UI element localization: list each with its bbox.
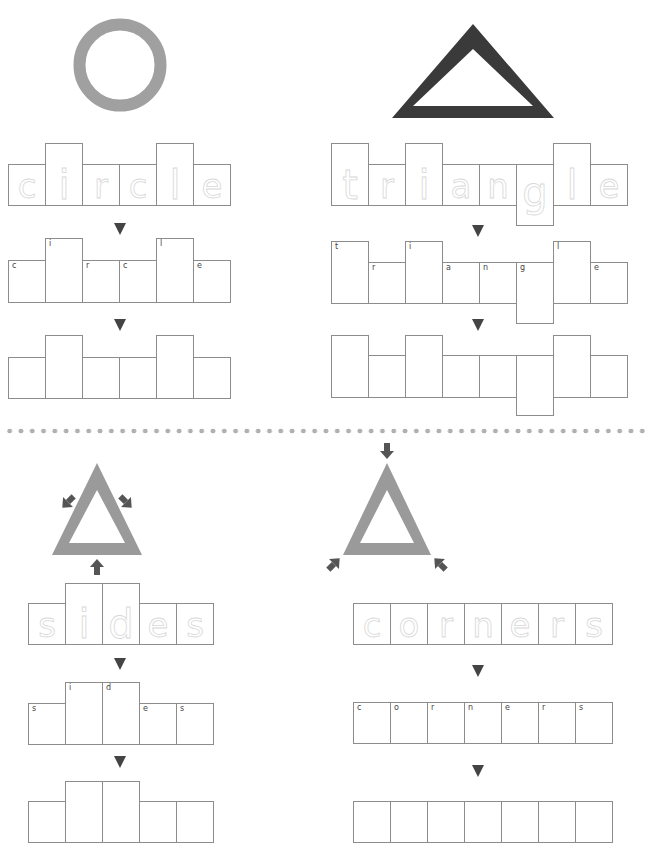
letter-label: r: [372, 264, 375, 272]
blank-letter-box[interactable]: [442, 355, 480, 398]
blank-letter-box[interactable]: [575, 801, 613, 843]
letter-box: s: [176, 703, 214, 745]
trace-letter-box: c: [8, 164, 46, 206]
blank-letter-box[interactable]: [45, 335, 83, 399]
blank-letter-box[interactable]: [193, 357, 231, 399]
blank-letter-box[interactable]: [28, 801, 66, 843]
traceable-letter: i: [66, 601, 102, 647]
blank-letter-box[interactable]: [82, 357, 120, 399]
letter-box: c: [8, 260, 46, 303]
blank-letter-box[interactable]: [353, 801, 391, 843]
letter-box: n: [464, 702, 502, 744]
arrow-side-bottom-icon: [90, 559, 104, 575]
trace-letter-box: r: [427, 603, 465, 645]
letter-label: d: [106, 684, 111, 692]
blank-letter-box[interactable]: [176, 801, 214, 843]
traceable-letter: d: [103, 601, 139, 647]
letter-box: n: [479, 262, 517, 304]
traceable-letter: n: [465, 605, 501, 645]
letter-label: n: [483, 264, 488, 272]
blank-letter-box[interactable]: [553, 335, 591, 398]
letter-box: i: [45, 238, 83, 303]
trace-letter-box: r: [368, 164, 406, 206]
trace-letter-box: a: [442, 164, 480, 206]
blank-letter-box[interactable]: [590, 355, 628, 398]
letter-box: r: [427, 702, 465, 744]
blank-letter-box[interactable]: [8, 357, 46, 399]
trace-letter-box: r: [538, 603, 576, 645]
letter-label: g: [520, 264, 525, 272]
letter-label: t: [335, 243, 338, 251]
circle-shape: [70, 14, 170, 116]
trace-letter-box: n: [464, 603, 502, 645]
blank-letter-box[interactable]: [119, 357, 157, 399]
letter-box: g: [516, 262, 554, 324]
letter-box: s: [28, 703, 66, 745]
letter-box: l: [156, 238, 194, 303]
traceable-letter: r: [369, 166, 405, 206]
blank-letter-box[interactable]: [516, 355, 554, 416]
traceable-letter: e: [140, 605, 176, 645]
down-arrow-icon: [114, 319, 126, 331]
letter-box: a: [442, 262, 480, 304]
down-arrow-icon: [114, 756, 126, 768]
trace-letter-box: o: [390, 603, 428, 645]
traceable-letter: l: [157, 162, 193, 208]
blank-letter-box[interactable]: [139, 801, 177, 843]
dotted-divider: [4, 428, 648, 434]
letter-box: c: [119, 260, 157, 303]
trace-letter-box: i: [405, 143, 443, 206]
letter-label: n: [468, 704, 473, 712]
blank-letter-box[interactable]: [479, 355, 517, 398]
trace-letter-box: e: [193, 164, 231, 206]
blank-letter-box[interactable]: [368, 355, 406, 398]
letter-label: e: [594, 264, 599, 272]
blank-letter-box[interactable]: [331, 335, 369, 398]
letter-label: e: [197, 262, 202, 270]
traceable-letter: o: [391, 605, 427, 645]
trace-letter-box: l: [156, 143, 194, 206]
traceable-letter: a: [443, 166, 479, 206]
letter-box: e: [139, 703, 177, 745]
blank-letter-box[interactable]: [156, 335, 194, 399]
letter-box: c: [353, 702, 391, 744]
blank-letter-box[interactable]: [405, 335, 443, 398]
blank-letter-box[interactable]: [501, 801, 539, 843]
down-arrow-icon: [114, 223, 126, 235]
trace-letter-box: i: [45, 143, 83, 206]
letter-box: r: [82, 260, 120, 303]
letter-label: o: [394, 704, 399, 712]
letter-label: s: [180, 705, 184, 713]
blank-letter-box[interactable]: [390, 801, 428, 843]
trace-letter-box: s: [176, 603, 214, 645]
traceable-letter: e: [194, 166, 230, 206]
trace-letter-box: c: [353, 603, 391, 645]
blank-letter-box[interactable]: [538, 801, 576, 843]
blank-letter-box[interactable]: [464, 801, 502, 843]
trace-letter-box: t: [331, 143, 369, 206]
traceable-letter: r: [539, 605, 575, 645]
trace-letter-box: r: [82, 164, 120, 206]
letter-label: i: [69, 684, 71, 692]
traceable-letter: s: [29, 605, 65, 645]
letter-label: i: [409, 243, 411, 251]
letter-label: a: [446, 264, 451, 272]
letter-box: e: [193, 260, 231, 303]
arrow-corner-left-icon: [323, 553, 344, 574]
down-arrow-icon: [472, 765, 484, 777]
down-arrow-icon: [472, 665, 484, 677]
letter-label: e: [505, 704, 510, 712]
blank-letter-box[interactable]: [427, 801, 465, 843]
circle-ring: [80, 25, 161, 106]
trace-letter-box: i: [65, 583, 103, 645]
blank-letter-box[interactable]: [65, 781, 103, 843]
blank-letter-box[interactable]: [102, 781, 140, 843]
letter-label: c: [12, 262, 16, 270]
letter-box: r: [538, 702, 576, 744]
traceable-letter: s: [177, 605, 213, 645]
traceable-letter: g: [517, 169, 553, 215]
traceable-letter: c: [120, 166, 156, 206]
trace-letter-box: e: [590, 164, 628, 206]
trace-letter-box: d: [102, 583, 140, 645]
trace-letter-box: e: [139, 603, 177, 645]
